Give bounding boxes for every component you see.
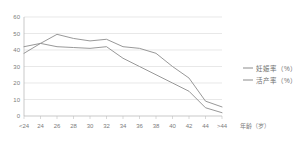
x-tick-label: <24 xyxy=(19,123,30,129)
x-tick-label: 32 xyxy=(103,123,110,129)
legend-label-pregnancy-rate: 妊娠率（%） xyxy=(256,64,297,73)
x-tick-label: 42 xyxy=(186,123,193,129)
legend: 妊娠率（%） 活产率（%） xyxy=(243,64,297,85)
chart-container: 60 50 40 30 20 10 0 <24 24 26 28 30 32 3… xyxy=(0,0,304,146)
x-tickmarks xyxy=(24,116,222,119)
y-tick-label: 50 xyxy=(13,31,20,37)
x-tick-labels: <24 24 26 28 30 32 34 36 38 40 42 44 >44 xyxy=(19,123,228,129)
x-tick-label: 38 xyxy=(153,123,160,129)
x-tick-label: 36 xyxy=(136,123,143,129)
y-tick-label: 0 xyxy=(17,113,21,119)
y-tick-label: 60 xyxy=(13,14,20,20)
y-tick-label: 20 xyxy=(13,80,20,86)
x-tick-label: 24 xyxy=(37,123,44,129)
x-axis-title: 年龄（岁） xyxy=(240,122,270,130)
line-chart: 60 50 40 30 20 10 0 <24 24 26 28 30 32 3… xyxy=(0,0,304,146)
legend-label-live-birth-rate: 活产率（%） xyxy=(256,76,297,85)
x-tick-label: 34 xyxy=(120,123,127,129)
series-line-live-birth-rate xyxy=(24,43,222,112)
x-tick-label: 40 xyxy=(169,123,176,129)
x-tick-label: 30 xyxy=(87,123,94,129)
y-tick-label: 30 xyxy=(13,64,20,70)
x-tick-label: 44 xyxy=(202,123,209,129)
y-tick-label: 40 xyxy=(13,47,20,53)
y-tick-labels: 60 50 40 30 20 10 0 xyxy=(13,14,20,119)
series-lines xyxy=(24,34,222,112)
series-line-pregnancy-rate xyxy=(24,34,222,107)
y-tick-label: 10 xyxy=(13,97,20,103)
x-tick-label: 26 xyxy=(54,123,61,129)
x-tick-label: 28 xyxy=(70,123,77,129)
x-tick-label: >44 xyxy=(217,123,228,129)
